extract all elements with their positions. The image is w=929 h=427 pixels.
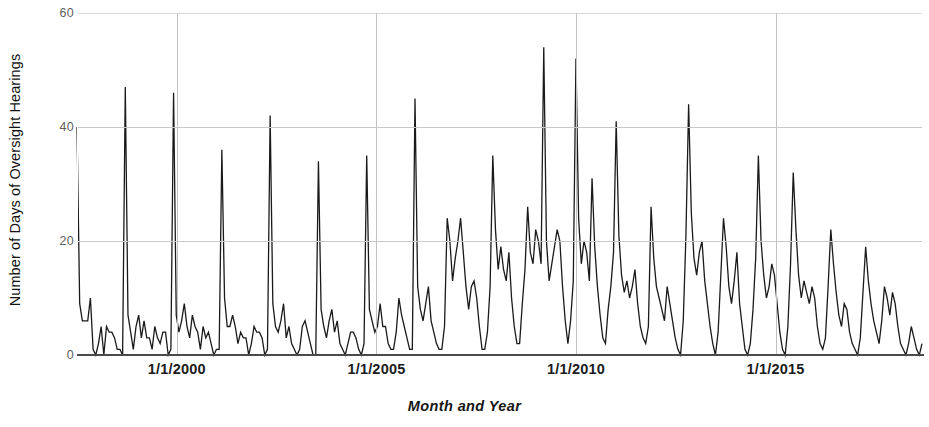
- x-axis-tick-label: 1/1/2015: [747, 361, 805, 377]
- chart-figure: Number of Days of Oversight Hearings 020…: [0, 0, 929, 427]
- y-axis-tick-label: 20: [40, 234, 74, 248]
- y-axis-tick-label: 60: [40, 6, 74, 20]
- series-line: [77, 13, 922, 355]
- gridline-horizontal: [77, 241, 922, 242]
- y-axis-tick-label: 0: [40, 348, 74, 362]
- gridline-vertical: [376, 13, 377, 355]
- line-series-oversight-hearings: [77, 47, 922, 355]
- y-axis-title-text: Number of Days of Oversight Hearings: [7, 54, 23, 307]
- x-axis-tick-label: 1/1/2010: [547, 361, 605, 377]
- y-axis-title: Number of Days of Oversight Hearings: [0, 0, 30, 360]
- gridline-horizontal: [77, 127, 922, 128]
- x-axis-tick-labels: 1/1/20001/1/20051/1/20101/1/2015: [0, 361, 929, 385]
- y-axis-tick-label: 40: [40, 120, 74, 134]
- gridline-vertical: [576, 13, 577, 355]
- plot-area: [77, 13, 922, 355]
- gridline-vertical: [776, 13, 777, 355]
- x-axis-line: [77, 354, 924, 356]
- gridline-vertical: [177, 13, 178, 355]
- x-axis-tick-label: 1/1/2005: [347, 361, 405, 377]
- x-axis-title: Month and Year: [0, 398, 929, 414]
- gridline-horizontal: [77, 13, 922, 14]
- y-axis-line: [77, 13, 78, 356]
- x-axis-tick-label: 1/1/2000: [148, 361, 206, 377]
